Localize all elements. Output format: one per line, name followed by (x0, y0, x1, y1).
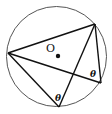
center-label: O (46, 42, 55, 55)
theta-label: θ (90, 69, 96, 79)
center-dot (56, 54, 60, 58)
theta-label: θ (55, 93, 61, 103)
circle-diagram: O θθ (0, 0, 112, 114)
